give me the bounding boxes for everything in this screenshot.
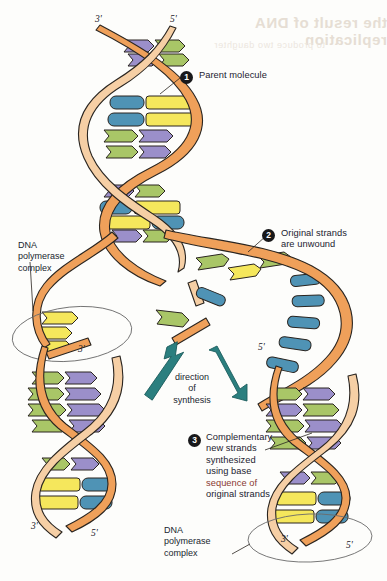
left-daughter-helix (28, 346, 123, 538)
label-daughter-right-3prime: 3' (281, 534, 288, 544)
label-daughter-left-5prime: 5' (91, 528, 98, 538)
label-parent-3prime-top: 3' (95, 14, 102, 24)
step-2-label: Original strands are unwound (281, 228, 347, 251)
step-3-label: Complementary new strands synthesized us… (206, 432, 272, 500)
label-right-fork-5prime: 5' (258, 342, 265, 352)
label-left-fork-3prime: 3' (78, 344, 85, 354)
polymerase-label-right: DNA polymerase complex (164, 525, 211, 559)
step-3-label-red: sequence of (206, 478, 272, 489)
free-nucleotide-blue (188, 280, 227, 307)
step-2-badge: 2 (262, 229, 275, 242)
step-3-label-tail: original strands (206, 489, 272, 500)
direction-of-synthesis-label: direction of synthesis (164, 372, 220, 406)
free-nucleotide-green (156, 310, 210, 345)
polymerase-label-left: DNA polymerase complex (18, 240, 65, 274)
step-3-label-main: Complementary new strands synthesized us… (206, 432, 272, 478)
label-daughter-right-5prime: 5' (346, 540, 353, 550)
label-parent-5prime-top: 5' (170, 14, 177, 24)
step-1-label: Parent molecule (199, 70, 267, 81)
dna-diagram-svg: .bb-o { fill:#efa05a; stroke:#2a2520; st… (0, 0, 387, 581)
dna-replication-figure: the result of DNA replication to produce… (0, 0, 387, 581)
free-nucleotides (156, 280, 227, 345)
step-3-badge: 3 (188, 434, 201, 447)
step-1-badge: 1 (180, 71, 193, 84)
label-daughter-left-3prime: 3' (31, 521, 38, 531)
